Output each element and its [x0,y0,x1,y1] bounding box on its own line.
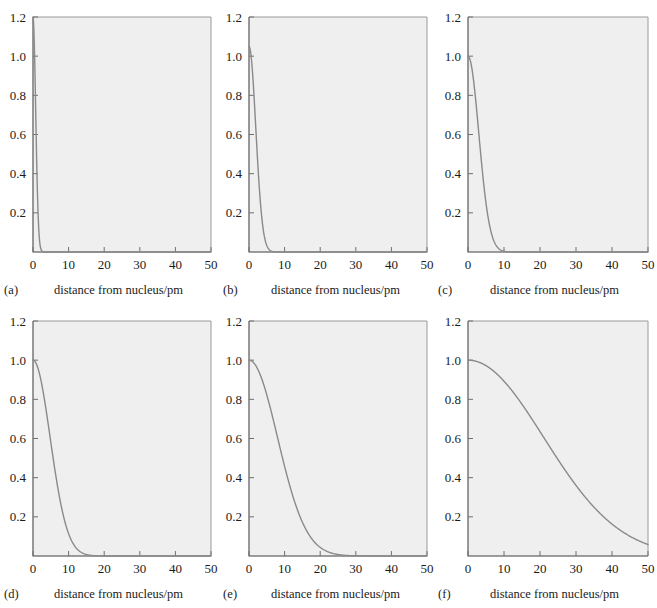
plot-background [33,17,211,252]
x-tick-label: 0 [246,561,253,576]
x-tick-label: 30 [349,257,362,272]
y-tick-label: 0.4 [445,470,462,485]
x-tick-label: 20 [534,561,547,576]
plot-area: 010203040500.20.40.60.81.01.2 [219,0,434,304]
chart-panel-a: 010203040500.20.40.60.81.01.2(a)distance… [0,0,219,304]
x-tick-label: 10 [62,561,75,576]
x-tick-label: 30 [570,561,583,576]
y-tick-label: 0.2 [10,205,26,220]
x-tick-label: 50 [205,257,218,272]
y-tick-label: 1.0 [10,353,26,368]
y-tick-label: 0.4 [226,470,243,485]
plot-background [468,17,648,252]
figure-panel-grid: 010203040500.20.40.60.81.01.2(a)distance… [0,0,657,608]
y-tick-label: 0.6 [10,431,27,446]
plot-area: 010203040500.20.40.60.81.01.2 [434,0,657,304]
plot-area: 010203040500.20.40.60.81.01.2 [0,0,219,304]
y-tick-label: 0.8 [445,392,461,407]
y-tick-label: 0.4 [10,166,27,181]
x-tick-label: 20 [314,257,327,272]
x-axis-label: distance from nucleus/pm [219,587,434,602]
x-tick-label: 40 [385,561,398,576]
plot-area: 010203040500.20.40.60.81.01.2 [219,304,434,608]
x-axis-label: distance from nucleus/pm [434,587,657,602]
y-tick-label: 1.0 [226,353,242,368]
y-tick-label: 0.6 [10,127,27,142]
x-tick-label: 40 [606,561,619,576]
x-tick-label: 10 [498,561,511,576]
chart-panel-c: 010203040500.20.40.60.81.01.2(c)distance… [434,0,657,304]
y-tick-label: 0.4 [226,166,243,181]
x-tick-label: 30 [570,257,583,272]
y-tick-label: 0.4 [10,470,27,485]
y-tick-label: 1.0 [10,49,26,64]
plot-area: 010203040500.20.40.60.81.01.2 [0,304,219,608]
x-tick-label: 30 [349,561,362,576]
x-tick-label: 20 [98,561,111,576]
y-tick-label: 0.6 [226,127,243,142]
x-tick-label: 20 [98,257,111,272]
y-tick-label: 1.2 [445,10,461,25]
x-tick-label: 0 [465,561,472,576]
y-tick-label: 0.6 [226,431,243,446]
y-tick-label: 0.2 [445,509,461,524]
y-tick-label: 0.2 [10,509,26,524]
x-tick-label: 10 [498,257,511,272]
y-tick-label: 0.8 [10,392,26,407]
plot-area: 010203040500.20.40.60.81.01.2 [434,304,657,608]
x-tick-label: 0 [30,561,37,576]
x-tick-label: 30 [133,561,146,576]
y-tick-label: 0.8 [226,392,242,407]
x-tick-label: 0 [465,257,472,272]
x-tick-label: 30 [133,257,146,272]
x-tick-label: 50 [205,561,218,576]
x-tick-label: 50 [642,257,655,272]
x-axis-label: distance from nucleus/pm [0,283,219,298]
x-tick-label: 40 [169,561,182,576]
plot-background [33,321,211,556]
chart-panel-d: 010203040500.20.40.60.81.01.2(d)distance… [0,304,219,608]
x-tick-label: 50 [642,561,655,576]
x-tick-label: 20 [534,257,547,272]
x-tick-label: 0 [30,257,37,272]
x-tick-label: 0 [246,257,253,272]
y-tick-label: 0.2 [226,205,242,220]
x-tick-label: 50 [421,561,434,576]
y-tick-label: 1.2 [10,314,26,329]
chart-panel-f: 010203040500.20.40.60.81.01.2(f)distance… [434,304,657,608]
y-tick-label: 1.0 [226,49,242,64]
chart-panel-e: 010203040500.20.40.60.81.01.2(e)distance… [219,304,434,608]
x-tick-label: 10 [278,561,291,576]
y-tick-label: 0.6 [445,127,462,142]
x-tick-label: 40 [606,257,619,272]
y-tick-label: 1.2 [226,314,242,329]
x-tick-label: 20 [314,561,327,576]
x-tick-label: 40 [385,257,398,272]
y-tick-label: 0.6 [445,431,462,446]
y-tick-label: 0.2 [226,509,242,524]
y-tick-label: 0.8 [226,88,242,103]
x-axis-label: distance from nucleus/pm [219,283,434,298]
y-tick-label: 1.0 [445,49,461,64]
plot-background [468,321,648,556]
x-tick-label: 10 [62,257,75,272]
y-tick-label: 1.2 [226,10,242,25]
y-tick-label: 0.8 [445,88,461,103]
y-tick-label: 1.2 [445,314,461,329]
x-tick-label: 10 [278,257,291,272]
x-axis-label: distance from nucleus/pm [434,283,657,298]
plot-background [249,321,427,556]
x-tick-label: 50 [421,257,434,272]
x-tick-label: 40 [169,257,182,272]
y-tick-label: 0.8 [10,88,26,103]
x-axis-label: distance from nucleus/pm [0,587,219,602]
y-tick-label: 0.2 [445,205,461,220]
y-tick-label: 1.0 [445,353,461,368]
plot-background [249,17,427,252]
y-tick-label: 1.2 [10,10,26,25]
y-tick-label: 0.4 [445,166,462,181]
chart-panel-b: 010203040500.20.40.60.81.01.2(b)distance… [219,0,434,304]
